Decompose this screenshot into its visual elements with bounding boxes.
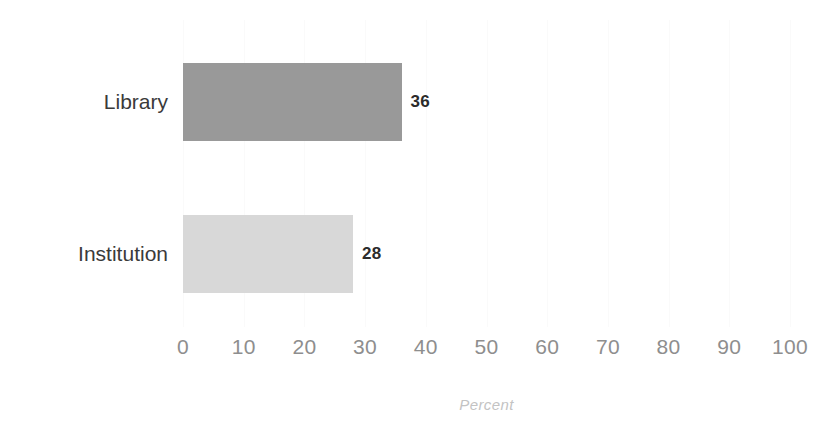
category-label-wrap-institution: Institution bbox=[0, 215, 168, 293]
x-axis-title: Percent bbox=[183, 396, 790, 413]
category-label-institution: Institution bbox=[78, 242, 168, 266]
bar-chart: 36 28 Library Institution 0 10 20 30 40 … bbox=[0, 0, 835, 447]
x-tick-label-40: 40 bbox=[414, 335, 438, 359]
bar-institution[interactable] bbox=[183, 215, 353, 293]
x-tick-label-20: 20 bbox=[292, 335, 316, 359]
x-tick-label-80: 80 bbox=[657, 335, 681, 359]
x-tick-label-30: 30 bbox=[353, 335, 377, 359]
x-tick-label-60: 60 bbox=[535, 335, 559, 359]
bar-row-institution: 28 bbox=[183, 215, 790, 293]
x-tick-label-0: 0 bbox=[177, 335, 189, 359]
x-tick-label-10: 10 bbox=[232, 335, 256, 359]
x-tick-label-100: 100 bbox=[772, 335, 808, 359]
gridline-100 bbox=[790, 20, 791, 327]
bar-row-library: 36 bbox=[183, 63, 790, 141]
bar-value-institution: 28 bbox=[362, 244, 381, 264]
x-axis: 0 10 20 30 40 50 60 70 80 90 100 bbox=[183, 335, 790, 361]
bar-library[interactable] bbox=[183, 63, 402, 141]
bar-value-library: 36 bbox=[411, 92, 430, 112]
x-tick-label-70: 70 bbox=[596, 335, 620, 359]
category-label-library: Library bbox=[104, 90, 168, 114]
category-label-wrap-library: Library bbox=[0, 63, 168, 141]
x-tick-label-50: 50 bbox=[475, 335, 499, 359]
x-tick-label-90: 90 bbox=[717, 335, 741, 359]
plot-area: 36 28 bbox=[183, 20, 790, 327]
